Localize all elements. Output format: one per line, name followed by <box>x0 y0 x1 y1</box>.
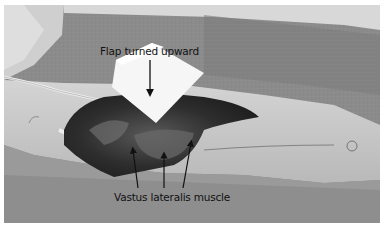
flap-label: Flap turned upward <box>100 45 199 57</box>
muscle-arrow-left <box>133 150 138 188</box>
muscle-arrow-right <box>183 143 191 188</box>
muscle-label: Vastus lateralis muscle <box>114 191 230 203</box>
surgical-photo: Flap turned upward Vastus lateralis musc… <box>4 5 380 223</box>
